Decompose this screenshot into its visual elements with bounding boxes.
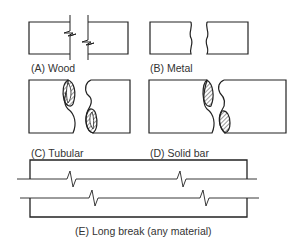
panel-label-long-break: (E) Long break (any material) [75,225,212,237]
long-break-panel [17,160,259,217]
tubular-break-panel [29,80,130,133]
solid-bar-break-panel [149,80,286,133]
panel-label-metal: (B) Metal [150,62,193,74]
panel-label-wood: (A) Wood [31,62,75,74]
panel-label-tubular: (C) Tubular [31,147,84,159]
panel-label-solid-bar: (D) Solid bar [150,147,209,159]
wood-break-panel [29,15,128,60]
break-lines-diagram [0,0,303,245]
metal-break-panel [150,22,248,54]
